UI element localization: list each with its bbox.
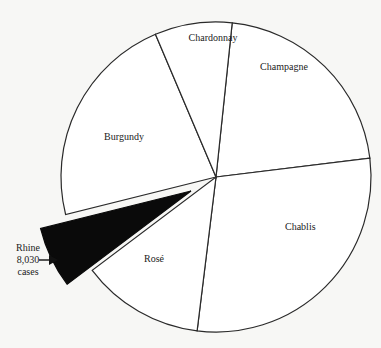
slice-label-chablis: Chablis [285,221,316,232]
slice-label-burgundy: Burgundy [104,131,144,142]
rhine-unit: cases [17,266,38,277]
rhine-value: 8,030 [17,254,40,265]
pie-slices [41,22,371,332]
slice-label-chardonnay: Chardonnay [189,32,238,43]
slice-champagne [216,23,370,177]
wine-sales-pie-chart: ChampagneChablisRoséBurgundyChardonnay R… [0,0,381,348]
slice-label-champagne: Champagne [260,61,308,72]
rhine-label: Rhine [16,242,40,253]
slice-chablis [197,158,371,332]
slice-label-ros: Rosé [144,253,165,264]
